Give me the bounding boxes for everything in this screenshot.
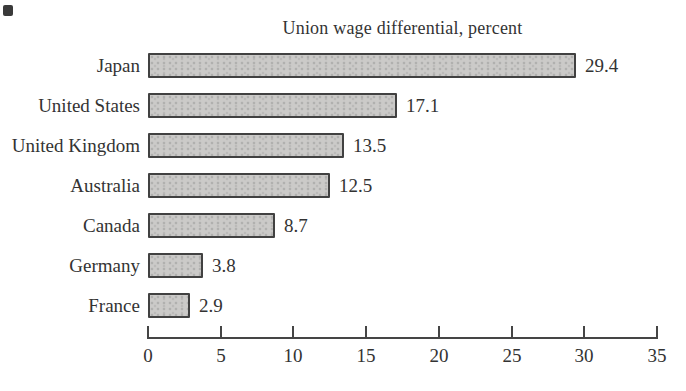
bar bbox=[148, 253, 203, 278]
value-label: 2.9 bbox=[199, 293, 223, 318]
bar bbox=[148, 173, 330, 198]
category-label: Australia bbox=[0, 173, 140, 198]
category-label: Germany bbox=[0, 253, 140, 278]
value-label: 29.4 bbox=[585, 53, 618, 78]
x-axis-tick-label: 15 bbox=[344, 344, 388, 368]
x-axis-tick-mark bbox=[583, 326, 585, 337]
x-axis-tick-label: 25 bbox=[490, 344, 534, 368]
x-axis-tick-mark bbox=[365, 326, 367, 337]
category-label: United States bbox=[0, 93, 140, 118]
value-label: 17.1 bbox=[406, 93, 439, 118]
x-axis-tick-mark bbox=[656, 326, 658, 337]
x-axis-tick-label: 0 bbox=[126, 344, 170, 368]
bar bbox=[148, 93, 397, 118]
x-axis-tick-mark bbox=[511, 326, 513, 337]
x-axis-tick-mark bbox=[438, 326, 440, 337]
category-label: Canada bbox=[0, 213, 140, 238]
x-axis-tick-mark bbox=[147, 326, 149, 337]
bar bbox=[148, 293, 190, 318]
value-label: 13.5 bbox=[353, 133, 386, 158]
bar bbox=[148, 213, 275, 238]
value-label: 8.7 bbox=[284, 213, 308, 238]
x-axis-tick-mark bbox=[220, 326, 222, 337]
x-axis-tick-mark bbox=[292, 326, 294, 337]
bar bbox=[148, 53, 576, 78]
category-label: Japan bbox=[0, 53, 140, 78]
x-axis-tick-label: 20 bbox=[417, 344, 461, 368]
value-label: 12.5 bbox=[339, 173, 372, 198]
x-axis-line bbox=[147, 337, 658, 339]
category-label: France bbox=[0, 293, 140, 318]
chart-title: Union wage differential, percent bbox=[148, 16, 657, 40]
category-label: United Kingdom bbox=[0, 133, 140, 158]
x-axis-tick-label: 30 bbox=[562, 344, 606, 368]
scan-artifact-mark bbox=[3, 5, 13, 16]
union-wage-differential-bar-chart: Union wage differential, percent Japan29… bbox=[0, 0, 686, 391]
value-label: 3.8 bbox=[212, 253, 236, 278]
bar bbox=[148, 133, 344, 158]
x-axis-tick-label: 35 bbox=[635, 344, 679, 368]
x-axis-tick-label: 10 bbox=[271, 344, 315, 368]
x-axis-tick-label: 5 bbox=[199, 344, 243, 368]
